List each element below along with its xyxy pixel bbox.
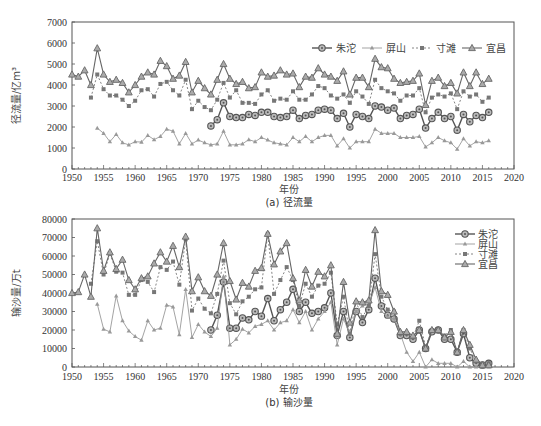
x-tick-label: 1955 — [94, 172, 114, 183]
x-tick-label: 1980 — [251, 371, 271, 382]
x-tick-label: 1975 — [220, 172, 240, 183]
chart-caption: (b) 输沙量 — [265, 396, 312, 408]
x-tick-label: 2005 — [409, 371, 429, 382]
legend-label: 寸滩 — [436, 42, 456, 54]
y-tick-label: 6000 — [47, 38, 67, 49]
legend-label: 宜昌 — [486, 42, 506, 54]
legend-label: 屏山 — [386, 43, 406, 54]
x-tick-label: 2015 — [472, 371, 492, 382]
y-tick-label: 2000 — [47, 122, 67, 133]
x-tick-label: 1965 — [157, 172, 177, 183]
y-tick-label: 20000 — [42, 325, 67, 336]
x-tick-label: 1960 — [125, 172, 145, 183]
x-tick-label: 1985 — [283, 371, 303, 382]
y-tick-label: 70000 — [42, 232, 67, 243]
series-寸滩 — [89, 73, 491, 115]
x-tick-label: 1950 — [62, 371, 82, 382]
chart-caption: (a) 径流量 — [265, 196, 312, 208]
x-tick-label: 1995 — [346, 371, 366, 382]
x-tick-label: 2010 — [441, 172, 461, 183]
x-tick-label: 1990 — [315, 371, 335, 382]
y-tick-label: 50000 — [42, 269, 67, 280]
x-tick-label: 1995 — [346, 172, 366, 183]
x-tick-label: 1955 — [94, 371, 114, 382]
x-tick-label: 1980 — [251, 172, 271, 183]
y-tick-label: 7000 — [47, 17, 67, 28]
x-axis-title: 年份 — [279, 183, 299, 195]
y-tick-label: 4000 — [47, 80, 67, 91]
y-tick-label: 10000 — [42, 343, 67, 354]
chart-canvas: 0100020003000400050006000700019501955196… — [0, 0, 541, 426]
y-tick-label: 30000 — [42, 306, 67, 317]
x-tick-label: 2020 — [504, 371, 524, 382]
y-tick-label: 40000 — [42, 288, 67, 299]
legend-label: 朱沱 — [336, 42, 356, 54]
legend: 朱沱屏山寸滩宜昌 — [455, 228, 498, 270]
x-tick-label: 1950 — [62, 172, 82, 183]
x-tick-label: 2015 — [472, 172, 492, 183]
series-屏山 — [95, 126, 491, 151]
x-tick-label: 2010 — [441, 371, 461, 382]
x-tick-label: 1965 — [157, 371, 177, 382]
y-tick-label: 80000 — [42, 214, 67, 225]
x-tick-label: 1975 — [220, 371, 240, 382]
x-tick-label: 2005 — [409, 172, 429, 183]
x-tick-label: 1990 — [315, 172, 335, 183]
series-寸滩 — [89, 232, 491, 365]
x-tick-label: 1985 — [283, 172, 303, 183]
y-tick-label: 60000 — [42, 251, 67, 262]
x-tick-label: 1960 — [125, 371, 145, 382]
x-tick-label: 2000 — [378, 172, 398, 183]
x-tick-label: 1970 — [188, 371, 208, 382]
y-tick-label: 1000 — [47, 143, 67, 154]
y-tick-label: 3000 — [47, 101, 67, 112]
x-tick-label: 2000 — [378, 371, 398, 382]
legend-label: 宜昌 — [478, 258, 498, 270]
legend: 朱沱屏山寸滩宜昌 — [312, 42, 506, 54]
chart-a: 0100020003000400050006000700019501955196… — [10, 17, 524, 209]
y-tick-label: 5000 — [47, 59, 67, 70]
x-tick-label: 1970 — [188, 172, 208, 183]
chart-b: 0100002000030000400005000060000700008000… — [10, 214, 524, 409]
y-axis-title: 输沙量/万t — [10, 269, 22, 316]
y-axis-title: 径流量/亿m³ — [10, 67, 22, 124]
x-axis-title: 年份 — [279, 383, 299, 395]
x-tick-label: 2020 — [504, 172, 524, 183]
